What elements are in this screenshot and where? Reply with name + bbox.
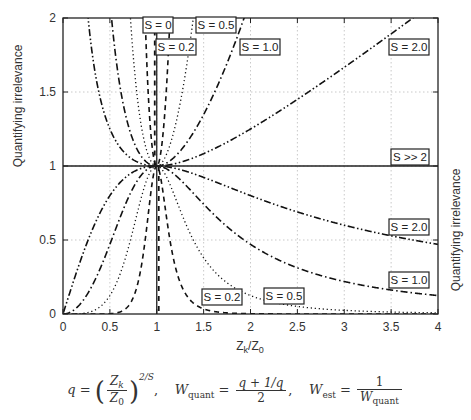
- svg-text:S >> 2: S >> 2: [393, 151, 427, 163]
- svg-text:1: 1: [49, 159, 56, 173]
- svg-text:0.5: 0.5: [39, 233, 56, 247]
- svg-text:1.5: 1.5: [39, 85, 56, 99]
- svg-text:S = 0.2: S = 0.2: [204, 291, 241, 303]
- label-s05-bottom: S = 0.5: [264, 288, 304, 304]
- svg-text:S = 0.5: S = 0.5: [266, 290, 303, 302]
- svg-text:2.5: 2.5: [289, 320, 306, 334]
- svg-text:S = 2.0: S = 2.0: [391, 221, 428, 233]
- label-s20-bottom: S = 2.0: [389, 219, 429, 235]
- svg-text:3: 3: [341, 320, 348, 334]
- svg-text:S = 0.5: S = 0.5: [198, 19, 235, 31]
- chart: 00.511.522.533.5400.511.52 Quantifying i…: [0, 0, 471, 370]
- label-s10-top: S = 1.0: [240, 39, 280, 55]
- svg-text:0: 0: [60, 320, 67, 334]
- svg-text:4: 4: [435, 320, 442, 334]
- svg-text:S = 2.0: S = 2.0: [391, 41, 428, 53]
- svg-text:S = 1.0: S = 1.0: [242, 41, 279, 53]
- label-s20-top: S = 2.0: [389, 39, 429, 55]
- axis-ticks: 00.511.522.533.5400.511.52: [39, 11, 441, 334]
- svg-text:2: 2: [247, 320, 254, 334]
- y-axis-label: Quantifying irrelevance: [11, 44, 25, 167]
- x-axis-label: Zk/Z0: [236, 339, 264, 355]
- svg-text:2: 2: [49, 11, 56, 25]
- label-s0: S = 0: [143, 17, 173, 33]
- label-s05-top: S = 0.5: [196, 17, 236, 33]
- svg-text:S = 0.2: S = 0.2: [158, 41, 195, 53]
- svg-text:S = 0: S = 0: [144, 19, 171, 31]
- label-s10-bottom: S = 1.0: [389, 272, 429, 288]
- svg-text:S = 1.0: S = 1.0: [391, 274, 428, 286]
- label-s02-bottom: S = 0.2: [202, 289, 242, 305]
- svg-text:1.5: 1.5: [195, 320, 212, 334]
- svg-text:1: 1: [153, 320, 160, 334]
- formula: q = (ZkZ0)2/S, Wquant = q + 1/q2, West =…: [0, 372, 471, 407]
- label-sinf: S >> 2: [391, 149, 429, 165]
- svg-text:0: 0: [49, 307, 56, 321]
- svg-text:3.5: 3.5: [383, 320, 400, 334]
- svg-text:0.5: 0.5: [102, 320, 119, 334]
- y-axis-label-right: Quantifying irrelevance: [449, 168, 463, 291]
- label-s02-top: S = 0.2: [156, 39, 196, 55]
